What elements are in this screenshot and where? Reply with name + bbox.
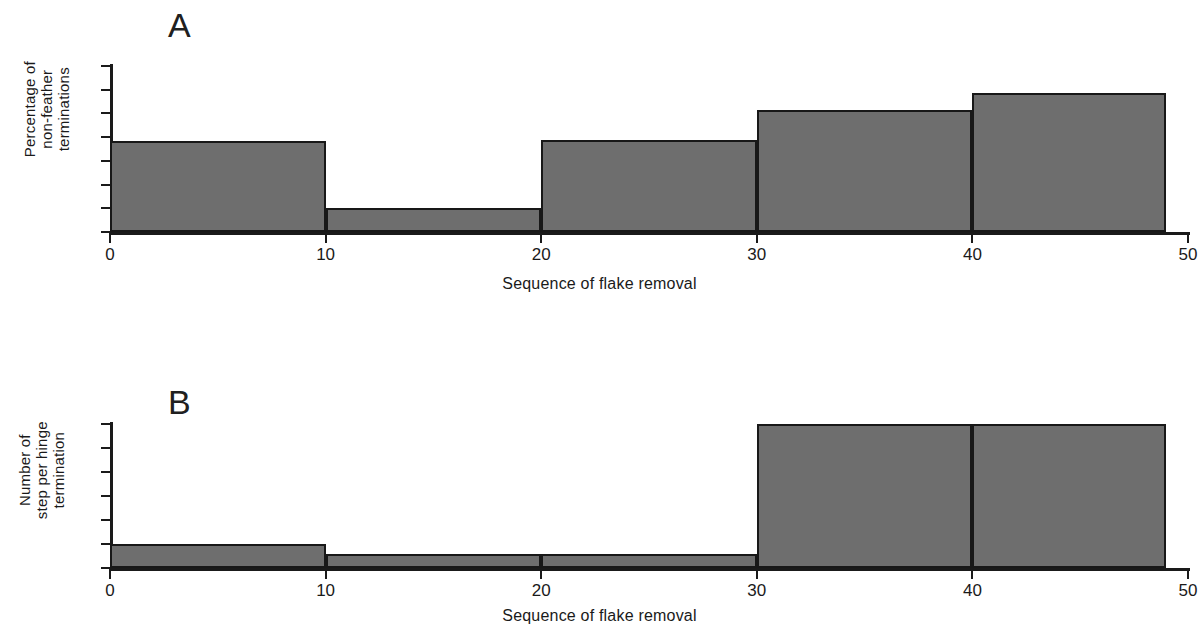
y-tick-mark <box>101 447 110 449</box>
bar <box>757 424 973 568</box>
x-tick-label: 30 <box>747 246 766 263</box>
x-tick-label: 10 <box>316 582 335 599</box>
y-tick-mark <box>101 65 110 67</box>
x-tick-label: 0 <box>105 582 114 599</box>
y-tick-label: 60 <box>0 81 96 98</box>
panel-a: A Percentage of non-feather terminations… <box>0 0 1199 315</box>
y-tick-label: 20 <box>0 176 96 193</box>
x-tick-mark <box>540 568 542 579</box>
x-tick-label: 50 <box>1179 582 1198 599</box>
panel-b-x-axis-title: Sequence of flake removal <box>0 607 1199 625</box>
bar <box>541 140 757 232</box>
bar <box>110 544 326 568</box>
y-tick-label: 6 <box>0 416 96 433</box>
y-tick-mark <box>101 112 110 114</box>
y-tick-label: 1 <box>0 536 96 553</box>
y-tick-label: 5 <box>0 440 96 457</box>
x-tick-label: 0 <box>105 246 114 263</box>
bar <box>110 141 326 232</box>
y-tick-label: 30 <box>0 152 96 169</box>
bar <box>541 554 757 568</box>
y-tick-label: 4 <box>0 464 96 481</box>
y-tick-mark <box>101 207 110 209</box>
x-tick-mark <box>971 232 973 243</box>
bar <box>972 424 1166 568</box>
panel-a-x-axis-line <box>110 232 1190 235</box>
panel-b-x-axis-line <box>110 568 1190 571</box>
y-tick-mark <box>101 543 110 545</box>
y-tick-mark <box>101 160 110 162</box>
x-tick-mark <box>1187 232 1189 243</box>
x-tick-mark <box>325 568 327 579</box>
y-tick-label: 40 <box>0 129 96 146</box>
panel-a-plot-area: 010203040506070 01020304050 <box>110 66 1188 232</box>
x-tick-mark <box>1187 568 1189 579</box>
x-tick-mark <box>756 232 758 243</box>
x-tick-mark <box>109 232 111 243</box>
bar <box>326 208 542 232</box>
y-tick-mark <box>101 495 110 497</box>
x-tick-label: 30 <box>747 582 766 599</box>
x-tick-label: 20 <box>532 246 551 263</box>
x-tick-mark <box>325 232 327 243</box>
y-tick-label: 2 <box>0 512 96 529</box>
y-tick-label: 70 <box>0 58 96 75</box>
panel-a-letter: A <box>168 8 191 42</box>
panel-b-letter: B <box>168 385 191 419</box>
bar <box>326 554 542 568</box>
x-tick-label: 20 <box>532 582 551 599</box>
x-tick-mark <box>540 232 542 243</box>
y-tick-label: 0 <box>0 560 96 577</box>
bar <box>972 93 1166 232</box>
y-tick-label: 0 <box>0 224 96 241</box>
panel-b: B Number of step per hinge termination 0… <box>0 315 1199 629</box>
bar <box>757 110 973 232</box>
panel-a-x-axis-title: Sequence of flake removal <box>0 275 1199 293</box>
x-tick-label: 50 <box>1179 246 1198 263</box>
x-tick-label: 40 <box>963 582 982 599</box>
y-tick-label: 10 <box>0 200 96 217</box>
y-tick-mark <box>101 136 110 138</box>
y-tick-mark <box>101 423 110 425</box>
panel-b-plot-area: 0123456 01020304050 <box>110 424 1188 568</box>
y-tick-mark <box>101 184 110 186</box>
x-tick-mark <box>756 568 758 579</box>
x-tick-label: 10 <box>316 246 335 263</box>
x-tick-label: 40 <box>963 246 982 263</box>
y-tick-mark <box>101 471 110 473</box>
x-tick-mark <box>109 568 111 579</box>
y-tick-mark <box>101 89 110 91</box>
y-tick-mark <box>101 519 110 521</box>
x-tick-mark <box>971 568 973 579</box>
y-tick-label: 3 <box>0 488 96 505</box>
y-tick-label: 50 <box>0 105 96 122</box>
